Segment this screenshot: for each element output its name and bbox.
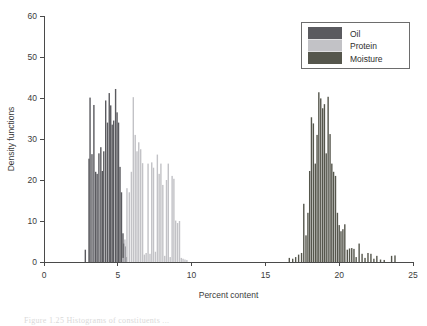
bar [121,192,122,262]
legend-swatch-moisture [308,52,342,64]
bar [136,151,137,262]
bar [351,248,352,262]
bar [147,164,148,262]
bar [370,254,371,262]
bar [162,185,163,262]
bar [376,256,377,262]
bar [122,258,123,262]
y-tick-label: 10 [28,216,38,226]
bar [115,89,116,262]
figure-container: 05101520250102030405060Percent contentDe… [0,0,427,326]
bar [349,248,350,262]
bar [100,147,101,262]
bar [93,105,94,262]
bar [142,163,143,262]
bar [344,224,345,262]
bar [107,123,108,262]
bar [394,255,395,262]
bar [179,221,180,262]
bar [105,100,106,262]
x-tick-label: 10 [187,270,197,280]
bar [175,221,176,262]
series-protein [122,97,187,262]
bar [318,92,319,262]
bar [124,239,125,262]
bar [129,192,130,262]
bar [96,174,97,262]
bar [320,98,321,262]
bar [327,97,328,262]
bar [91,154,92,262]
bar [116,112,117,262]
bar [181,258,182,262]
bar [133,97,134,262]
legend-label-protein: Protein [350,41,377,51]
bar [301,253,302,262]
bar [305,235,306,262]
bar [157,155,158,262]
bar [339,225,340,262]
bar [118,123,119,262]
bar [313,123,314,262]
bar [119,167,120,262]
legend-swatch-oil [308,27,342,39]
bar [140,149,141,262]
bar [355,257,356,262]
bar [85,250,86,262]
bar [126,188,127,262]
bar [298,255,299,262]
bar [358,244,359,262]
bar [173,179,174,262]
bar [361,254,362,262]
x-tick-label: 20 [334,270,344,280]
bar [103,151,104,262]
bar [109,93,110,262]
density-histogram-chart: 05101520250102030405060Percent contentDe… [0,0,427,310]
bar [311,117,312,262]
y-axis-title: Density functions [6,107,16,172]
bar [316,135,317,262]
bar [331,164,332,262]
bar [145,253,146,262]
bar [322,108,323,262]
bar [170,257,171,262]
bar [391,256,392,262]
bar [110,105,111,262]
bar [102,171,103,262]
legend-label-moisture: Moisture [350,54,383,64]
bar [315,164,316,262]
bar [95,172,96,262]
series-moisture [289,92,396,262]
bar [333,172,334,262]
bar [324,104,325,262]
bar [149,254,150,262]
y-tick-label: 20 [28,175,38,185]
bar [337,213,338,262]
bar [289,258,290,262]
bar [309,171,310,262]
bar [160,164,161,262]
bar [144,255,145,262]
figure-caption-ghost: Figure 1.25 Histograms of constituents .… [0,316,427,326]
x-tick-label: 25 [408,270,418,280]
legend-swatch-protein [308,40,342,52]
y-tick-label: 30 [28,134,38,144]
bar [89,98,90,262]
bar [151,162,152,262]
bar [131,172,132,262]
x-tick-label: 15 [261,270,271,280]
bar [303,204,304,262]
y-tick-label: 0 [32,257,37,267]
bar [135,135,136,262]
bar [347,250,348,262]
bar [367,253,368,262]
bar [164,256,165,262]
bar [98,153,99,262]
y-tick-label: 50 [28,52,38,62]
x-axis-title: Percent content [199,290,259,300]
bar [326,153,327,262]
bar [113,121,114,262]
x-tick-label: 0 [42,270,47,280]
bar [155,252,156,262]
bar [340,231,341,262]
